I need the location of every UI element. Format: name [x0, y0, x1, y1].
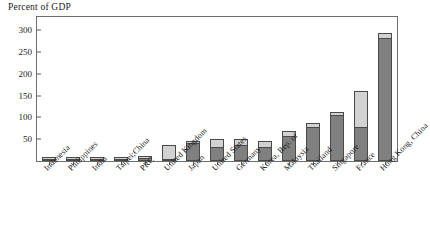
y-tick-label: 300 — [3, 26, 37, 35]
y-tick-label: 250 — [3, 47, 37, 56]
bar-segment-corporate[interactable] — [354, 91, 369, 127]
y-tick-label: 150 — [3, 91, 37, 100]
y-tick-mark — [37, 95, 41, 96]
plot-area: 50100150200250300 — [37, 17, 397, 161]
y-axis-title: Percent of GDP — [8, 2, 71, 12]
y-tick-mark — [37, 73, 41, 74]
y-tick-label: 50 — [3, 135, 37, 144]
bar-group[interactable] — [378, 33, 393, 161]
y-tick-mark — [37, 30, 41, 31]
bar-segment-corporate[interactable] — [210, 139, 225, 147]
y-tick-mark — [37, 139, 41, 140]
chart-container: Percent of GDP Government Corporate 5010… — [0, 0, 430, 246]
y-tick-mark — [37, 117, 41, 118]
y-tick-mark — [37, 51, 41, 52]
y-tick-label: 100 — [3, 113, 37, 122]
plot-frame: 50100150200250300 — [36, 16, 398, 162]
y-tick-label: 200 — [3, 69, 37, 78]
bar-segment-government[interactable] — [378, 38, 393, 161]
